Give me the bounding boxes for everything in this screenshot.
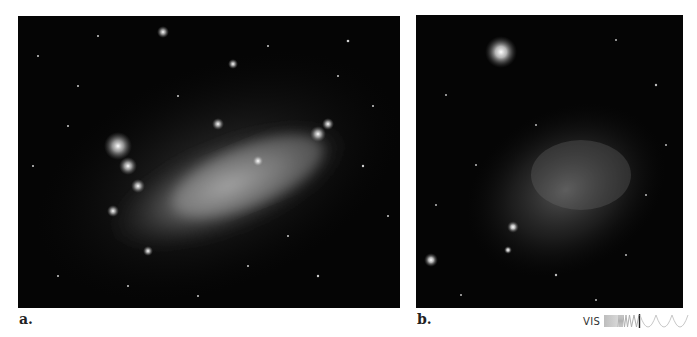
galaxy-image-a bbox=[18, 16, 400, 308]
galaxy-b-rendering bbox=[416, 15, 683, 308]
panel-label-b: b. bbox=[417, 311, 432, 327]
wavelength-indicator: VIS bbox=[583, 313, 690, 329]
spectrum-wave-icon bbox=[604, 313, 690, 329]
panel-label-a: a. bbox=[19, 311, 33, 327]
wavelength-label: VIS bbox=[583, 316, 600, 327]
galaxy-a-rendering bbox=[18, 16, 400, 308]
galaxy-image-b bbox=[416, 15, 683, 308]
